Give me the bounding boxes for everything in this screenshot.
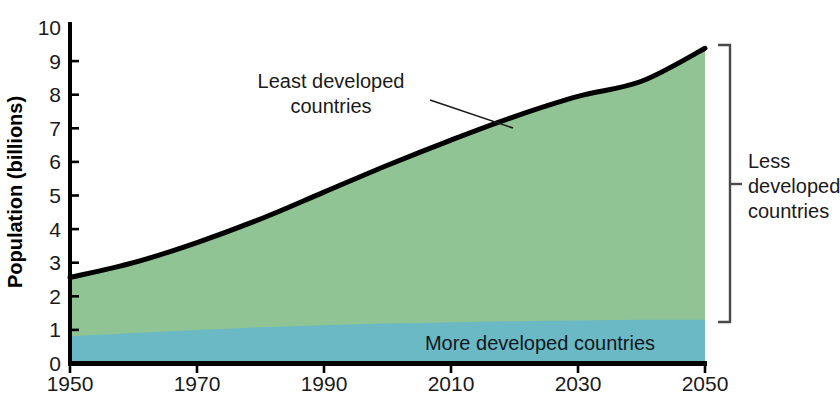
x-axis-tick-label: 2010 <box>428 372 475 394</box>
less-developed-bracket <box>718 45 730 322</box>
y-axis-tick-labels: 012345678910 <box>38 16 62 375</box>
x-axis-tick-label: 2030 <box>555 372 602 394</box>
y-axis-tick-label: 7 <box>49 117 61 140</box>
x-axis-tick-label: 1970 <box>174 372 221 394</box>
y-axis-tick-label: 6 <box>49 150 61 173</box>
y-axis-tick-label: 2 <box>49 285 61 308</box>
annotation-less-developed-line3: countries <box>748 200 829 222</box>
annotation-less-developed: Less developed countries <box>718 45 840 322</box>
annotation-less-developed-line1: Less <box>748 150 790 172</box>
x-axis-tick-labels: 195019701990201020302050 <box>47 372 729 394</box>
y-axis-title: Population (billions) <box>4 96 26 288</box>
x-axis-tick-label: 2050 <box>682 372 729 394</box>
y-axis-tick-label: 5 <box>49 184 61 207</box>
annotation-least-developed-line1: Least developed <box>258 70 405 92</box>
x-axis-tick-label: 1950 <box>47 372 94 394</box>
y-axis-tick-label: 10 <box>38 16 61 39</box>
y-axis-tick-label: 9 <box>49 50 61 73</box>
y-axis-tick-label: 3 <box>49 251 61 274</box>
annotation-least-developed-line2: countries <box>290 95 371 117</box>
x-axis-tick-label: 1990 <box>301 372 348 394</box>
annotation-least-developed: Least developed countries <box>258 70 513 128</box>
area-bands <box>70 48 705 363</box>
annotation-less-developed-line2: developed <box>748 175 840 197</box>
y-axis-tick-label: 8 <box>49 83 61 106</box>
annotation-least-developed-leader-line <box>430 100 513 128</box>
y-axis-tick-label: 1 <box>49 318 61 341</box>
y-axis-tick-label: 4 <box>49 218 61 241</box>
area-band-least-developed <box>70 48 705 363</box>
chart-container: 012345678910 195019701990201020302050 Po… <box>0 0 840 394</box>
annotation-more-developed: More developed countries <box>425 332 655 354</box>
population-area-chart: 012345678910 195019701990201020302050 Po… <box>0 0 840 394</box>
